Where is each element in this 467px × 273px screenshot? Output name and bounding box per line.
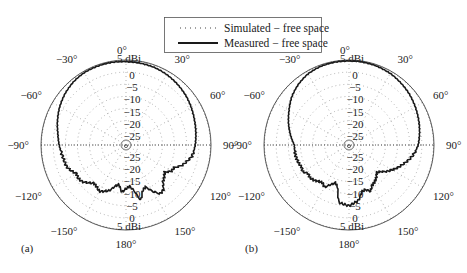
angle-label: 90° xyxy=(446,139,461,151)
polar-plot-b: 5 dBi0−5−10−15−20−25−25−20−15−10−505 dBi… xyxy=(230,44,461,250)
radial-label: −20 xyxy=(123,118,141,130)
radial-label: 0 xyxy=(352,69,358,81)
radial-label: −25 xyxy=(123,151,141,163)
angle-label: 150° xyxy=(175,225,196,237)
radial-label: −15 xyxy=(346,175,364,187)
angle-label: 60° xyxy=(433,89,448,101)
angle-label: −60° xyxy=(20,89,42,101)
radial-label: −10 xyxy=(123,188,141,200)
radial-label: −5 xyxy=(126,81,138,93)
grid-spoke xyxy=(52,103,126,146)
radial-label: −5 xyxy=(349,81,361,93)
angle-label: 120° xyxy=(433,190,454,202)
angle-label: −120° xyxy=(15,190,42,202)
radial-label: −5 xyxy=(126,200,138,212)
angle-label: −60° xyxy=(243,89,265,101)
angle-label: 120° xyxy=(210,190,231,202)
radial-label: 0 xyxy=(129,69,135,81)
radial-label: −15 xyxy=(346,106,364,118)
grid-spoke xyxy=(84,71,127,145)
legend: Simulated − free space Measured − free s… xyxy=(165,18,330,53)
radial-label: −25 xyxy=(346,130,364,142)
radial-label: −25 xyxy=(346,151,364,163)
angle-label: 180° xyxy=(339,238,360,250)
polar-plot-a: 5 dBi0−5−10−15−20−25−25−20−15−10−505 dBi… xyxy=(7,44,238,250)
angle-label: −150° xyxy=(273,225,300,237)
radial-label: −20 xyxy=(346,163,364,175)
angle-label: 150° xyxy=(398,225,419,237)
grid-spoke xyxy=(275,103,349,146)
angle-label: 0° xyxy=(340,44,350,56)
radial-label: −10 xyxy=(346,188,364,200)
angle-label: −90° xyxy=(230,139,252,151)
radial-label: −15 xyxy=(123,175,141,187)
angle-label: −30° xyxy=(279,53,301,65)
angle-label: −150° xyxy=(50,225,77,237)
grid-spoke xyxy=(275,145,349,188)
grid-spoke xyxy=(52,145,126,188)
panel-label-b: (b) xyxy=(245,242,258,255)
radial-label: 5 dBi xyxy=(117,220,141,232)
angle-label: 60° xyxy=(210,89,225,101)
legend-label-simulated: Simulated − free space xyxy=(224,22,329,35)
angle-label: 30° xyxy=(398,53,413,65)
polar-figure: Simulated − free space Measured − free s… xyxy=(0,0,467,273)
angle-label: −30° xyxy=(56,53,78,65)
angle-label: 30° xyxy=(175,53,190,65)
panel-label-a: (a) xyxy=(21,242,34,255)
radial-label: −20 xyxy=(123,163,141,175)
legend-label-measured: Measured − free space xyxy=(224,37,328,50)
grid-spoke xyxy=(307,71,350,145)
radial-label: −10 xyxy=(123,93,141,105)
radial-label: −20 xyxy=(346,118,364,130)
radial-label: −25 xyxy=(123,130,141,142)
angle-label: 0° xyxy=(117,44,127,56)
angle-label: −120° xyxy=(238,190,265,202)
radial-label: 5 dBi xyxy=(340,220,364,232)
radial-label: −10 xyxy=(346,93,364,105)
angle-label: 180° xyxy=(116,238,137,250)
radial-label: −15 xyxy=(123,106,141,118)
radial-label: −5 xyxy=(349,200,361,212)
angle-label: −90° xyxy=(7,139,29,151)
